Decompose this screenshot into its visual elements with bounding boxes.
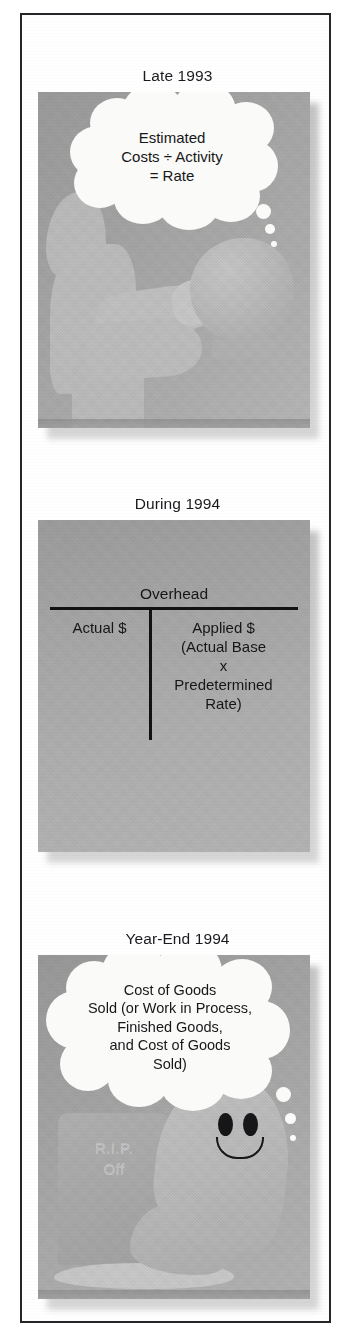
figure-frame: Late 1993: [20, 13, 331, 1323]
t-account-debit-label: Actual $: [50, 610, 149, 740]
thought-bubble-text-late-1993: Estimated Costs ÷ Activity = Rate: [121, 128, 223, 185]
thought-tail-dot-small: [271, 241, 277, 247]
crystal-ball-sphere: [190, 238, 294, 342]
artwork-fortune-teller: Estimated Costs ÷ Activity = Rate: [38, 92, 310, 428]
thought-tail-dot-large: [276, 1087, 291, 1102]
artwork-wrapper-late-1993: Estimated Costs ÷ Activity = Rate: [38, 92, 310, 428]
thought-bubble-year-end-1994: Cost of Goods Sold (or Work in Process, …: [64, 959, 276, 1095]
thought-tail-dot-large: [256, 204, 271, 219]
t-account-title: Overhead: [50, 584, 298, 604]
fortune-teller-forearm: [84, 316, 204, 382]
artwork-ghost-tombstone: R.I.P. Off: [38, 955, 310, 1299]
thought-tail-dot-medium: [265, 224, 275, 234]
thought-tail-dot-small: [290, 1135, 296, 1141]
thought-tail-dot-medium: [285, 1113, 296, 1124]
t-account-credit-label: Applied $ (Actual Base x Predetermined R…: [149, 610, 298, 740]
thought-bubble-late-1993: Estimated Costs ÷ Activity = Rate: [86, 100, 258, 212]
ghost-eye-right: [243, 1113, 258, 1136]
panel-label-during-1994: During 1994: [22, 495, 333, 513]
ground-line: [38, 1290, 310, 1299]
panel-year-end-1994: Year-End 1994 R.I.P. Off: [22, 930, 333, 1299]
ground-line: [38, 419, 310, 428]
t-account-body: Actual $ Applied $ (Actual Base x Predet…: [50, 610, 298, 740]
thought-bubble-text-year-end-1994: Cost of Goods Sold (or Work in Process, …: [88, 981, 252, 1074]
fortune-teller-silhouette: [44, 192, 194, 428]
crystal-ball-stand: [212, 339, 274, 359]
artwork-wrapper-year-end-1994: R.I.P. Off: [38, 955, 310, 1299]
panel-label-late-1993: Late 1993: [22, 67, 333, 85]
t-account: Overhead Actual $ Applied $ (Actual Base…: [50, 584, 298, 740]
panel-during-1994: During 1994 Overhead Actual $ Applied $ …: [22, 495, 333, 852]
panel-late-1993: Late 1993: [22, 67, 333, 428]
crystal-ball: [190, 238, 294, 342]
panel-label-year-end-1994: Year-End 1994: [22, 930, 333, 948]
ghost-eye-left: [218, 1113, 233, 1136]
t-account-vertical-rule: [149, 610, 152, 740]
artwork-overhead-t-account: Overhead Actual $ Applied $ (Actual Base…: [38, 520, 310, 852]
artwork-wrapper-during-1994: Overhead Actual $ Applied $ (Actual Base…: [38, 520, 310, 852]
